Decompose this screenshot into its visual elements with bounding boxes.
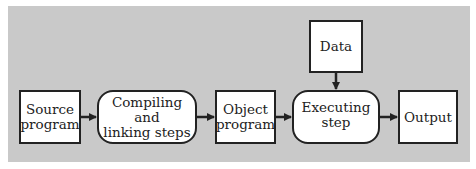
edges: [0, 0, 476, 169]
